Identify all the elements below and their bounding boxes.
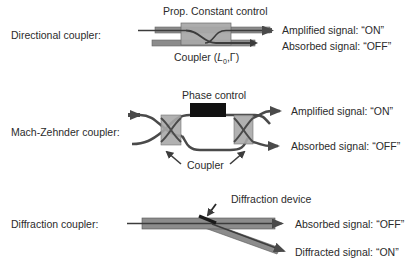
diffraction-off-label: Absorbed signal: “OFF” (295, 218, 404, 230)
mz-off-label: Absorbed signal: “OFF” (291, 140, 400, 152)
directional-on-label: Amplified signal: “ON” (282, 24, 384, 36)
mz-output-off (253, 142, 278, 146)
coupler-region (181, 23, 231, 45)
directional-off-label: Absorbed signal: “OFF” (282, 40, 391, 52)
coupler-suffix: ,Γ) (227, 51, 239, 63)
diffraction-device-label: Diffraction device (231, 193, 311, 205)
mach-zehnder-label: Mach-Zehnder coupler: (11, 126, 120, 138)
coupler-pointer-right (230, 152, 244, 164)
phase-control-block (190, 103, 226, 117)
diffraction-coupler-diagram (127, 204, 284, 254)
coupler-prefix: Coupler ( (174, 51, 217, 63)
coupler-pointer-left (167, 152, 181, 164)
mz-on-label: Amplified signal: “ON” (291, 105, 393, 117)
directional-coupler-label: Directional coupler: (11, 29, 101, 41)
diffraction-pointer (208, 204, 216, 215)
directional-coupler-diagram (138, 23, 272, 46)
mach-zehnder-diagram (128, 103, 280, 164)
phase-control-label: Phase control (182, 89, 246, 101)
prop-constant-control-label: Prop. Constant control (163, 5, 267, 17)
diffraction-coupler-label: Diffraction coupler: (11, 218, 98, 230)
coupler-params-label: Coupler (L0,Γ) (174, 51, 239, 68)
mz-coupler-label: Coupler (187, 159, 224, 171)
diffraction-on-label: Diffracted signal: “ON” (295, 246, 399, 258)
